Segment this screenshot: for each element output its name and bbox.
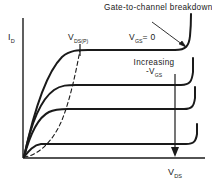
chart-canvas [0,0,212,186]
increasing-label-symbol: -V [146,67,155,76]
pinchoff-label-subscript: DS(P) [74,38,88,44]
pinchoff-locus-dashed [24,50,80,157]
x-axis-label: VDS [168,167,182,179]
y-axis-label: ID [8,32,15,44]
vgs-zero-value: = 0 [143,32,156,42]
y-axis-label-subscript: D [11,38,15,44]
jfet-characteristics-figure: Gate-to-channel breakdown ID VDS VDS(P) … [0,0,212,186]
breakdown-label-text: Gate-to-channel breakdown [104,3,212,12]
vgs-zero-subscript: GS [135,38,143,44]
breakdown-label: Gate-to-channel breakdown [104,3,198,12]
vgs-zero-label: VGS= 0 [129,33,156,44]
increasing-vgs-arrowhead-icon [171,147,179,157]
x-axis-label-subscript: DS [174,173,182,179]
curve-vgs-2 [24,87,195,157]
increasing-vgs-label: Increasing -VGS [125,58,183,79]
breakdown-arrowhead-icon [179,41,186,47]
increasing-label-subscript: GS [155,72,162,78]
increasing-label-text: Increasing [134,58,175,67]
pinchoff-voltage-label: VDS(P) [68,33,88,44]
